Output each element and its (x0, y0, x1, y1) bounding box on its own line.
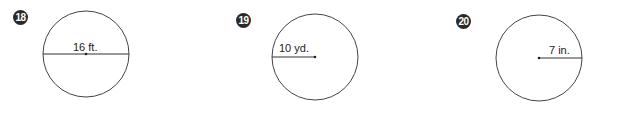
center-point (314, 56, 317, 59)
circle-figures: 16 ft. 10 yd. 7 in. (0, 0, 620, 130)
circle-20: 7 in. (496, 15, 582, 101)
measure-label-19: 10 yd. (279, 42, 309, 54)
circle-18: 16 ft. (43, 11, 129, 97)
measure-label-20: 7 in. (549, 44, 570, 56)
measure-label-18: 16 ft. (73, 41, 97, 53)
center-point (85, 53, 88, 56)
center-point (538, 57, 541, 60)
circle-19: 10 yd. (272, 14, 358, 100)
